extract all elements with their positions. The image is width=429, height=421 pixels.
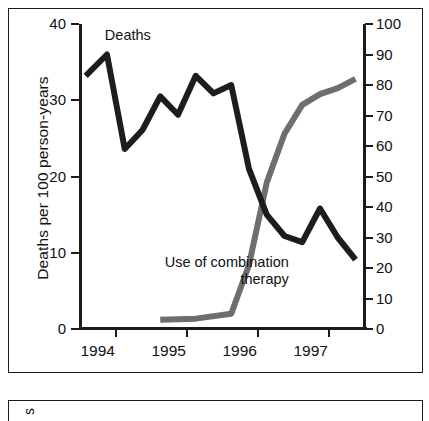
y-right-tick [365, 23, 373, 25]
y-right-tick-label: 70 [376, 108, 416, 123]
next-panel-y-axis-title-fragment: s [21, 408, 37, 415]
y-right-tick-label: 10 [376, 291, 416, 306]
chart-panel: Deaths per 100 person-years Therapy with… [8, 8, 423, 373]
y-right-tick [365, 206, 373, 208]
annotation-therapy-line2: therapy [129, 271, 289, 288]
y-right-tick [365, 115, 373, 117]
series-line-deaths [86, 55, 356, 260]
x-tick-label: 1995 [139, 342, 199, 360]
annotation-combination-therapy: Use of combination therapy [129, 254, 289, 288]
x-tick-label: 1996 [210, 342, 270, 360]
y-right-tick-label: 100 [376, 16, 416, 31]
y-left-tick [71, 23, 79, 25]
y-right-tick [365, 145, 373, 147]
y-right-tick-label: 40 [376, 199, 416, 214]
x-axis-line [79, 327, 367, 330]
y-left-tick-label: 20 [26, 169, 66, 184]
annotation-therapy-line1: Use of combination [165, 254, 289, 270]
x-tick-label: 1997 [281, 342, 341, 360]
y-right-tick-label: 80 [376, 77, 416, 92]
y-right-tick-label: 50 [376, 169, 416, 184]
y-right-tick [365, 176, 373, 178]
figure-root: Deaths per 100 person-years Therapy with… [0, 0, 429, 421]
y-right-tick [365, 54, 373, 56]
y-left-tick [71, 328, 79, 330]
y-right-tick [365, 267, 373, 269]
x-tick-label: 1994 [68, 342, 128, 360]
y-right-tick [365, 237, 373, 239]
y-left-tick-label: 0 [26, 321, 66, 336]
annotation-deaths: Deaths [105, 27, 151, 44]
y-right-tick-label: 0 [376, 321, 416, 336]
y-left-tick [71, 99, 79, 101]
y-left-tick [71, 252, 79, 254]
x-tick [328, 328, 330, 337]
y-left-tick-label: 10 [26, 245, 66, 260]
next-chart-panel: s [8, 400, 423, 421]
y-right-tick [365, 328, 373, 330]
x-tick [257, 328, 259, 337]
x-tick [186, 328, 188, 337]
y-right-tick-label: 20 [376, 260, 416, 275]
y-right-tick [365, 84, 373, 86]
y-left-tick-label: 30 [26, 92, 66, 107]
y-right-tick-label: 90 [376, 47, 416, 62]
y-left-tick-label: 40 [26, 16, 66, 31]
x-tick [115, 328, 117, 337]
y-left-tick [71, 176, 79, 178]
y-right-tick [365, 298, 373, 300]
y-right-tick-label: 60 [376, 138, 416, 153]
plot-area: 010203040 0102030405060708090100 1994199… [80, 24, 364, 329]
y-right-tick-label: 30 [376, 230, 416, 245]
